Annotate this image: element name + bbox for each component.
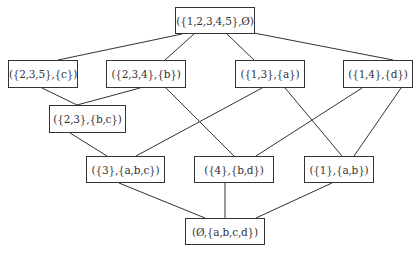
edge-n0-n4 xyxy=(254,33,393,60)
node-label: ({1},{a,b}) xyxy=(309,164,368,176)
hasse-diagram: ({1,2,3,4,5},Ø)({2,3,5},{c})({2,3,4},{b}… xyxy=(0,0,420,257)
lattice-node-n8: ({1},{a,b}) xyxy=(304,156,374,183)
edge-n0-n3 xyxy=(227,34,254,60)
lattice-node-n6: ({3},{a,b,c}) xyxy=(86,156,165,183)
node-label: ({2,3,5},{c}) xyxy=(9,68,77,80)
node-label: (Ø,{a,b,c,d}) xyxy=(192,226,258,238)
edge-n3-n6 xyxy=(136,88,262,156)
edge-n3-n8 xyxy=(285,88,342,156)
node-label: ({1,3},{a}) xyxy=(240,68,299,80)
lattice-node-n4: ({1,4},{d}) xyxy=(343,60,413,88)
lattice-node-n0: ({1,2,3,4,5},Ø) xyxy=(175,7,255,34)
edge-n4-n8 xyxy=(354,88,401,156)
lattice-node-n1: ({2,3,5},{c}) xyxy=(8,60,78,88)
edge-n6-n9 xyxy=(119,183,205,218)
node-label: ({2,3},{b,c}) xyxy=(53,113,121,125)
node-label: ({3},{a,b,c}) xyxy=(92,164,160,176)
lattice-node-n3: ({1,3},{a}) xyxy=(235,60,305,88)
node-label: ({1,2,3,4,5},Ø) xyxy=(176,15,253,27)
node-label: ({2,3,4},{b}) xyxy=(111,68,180,80)
edge-n2-n5 xyxy=(77,88,140,105)
edge-n0-n1 xyxy=(58,34,182,60)
edge-n5-n6 xyxy=(70,133,107,156)
edge-n1-n5 xyxy=(42,88,77,105)
edge-n8-n9 xyxy=(256,183,332,218)
lattice-node-n5: ({2,3},{b,c}) xyxy=(49,105,126,133)
lattice-node-n9: (Ø,{a,b,c,d}) xyxy=(185,218,265,245)
node-label: ({4},{b,d}) xyxy=(204,164,264,176)
node-label: ({1,4},{d}) xyxy=(348,68,407,80)
edge-n4-n7 xyxy=(256,88,362,156)
edge-n0-n2 xyxy=(165,34,194,60)
lattice-node-n7: ({4},{b,d}) xyxy=(194,156,274,183)
lattice-node-n2: ({2,3,4},{b}) xyxy=(106,60,186,88)
